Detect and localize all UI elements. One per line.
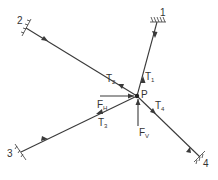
cable-2-arrow	[41, 36, 48, 41]
tension-label-3: T3	[98, 117, 108, 129]
force-diagram: 1 2 3 4 P T1 T2 T3 T4 FH FV	[0, 0, 218, 180]
point-p	[135, 94, 139, 98]
tension-label-1: T1	[145, 71, 155, 83]
support-label-3: 3	[7, 148, 13, 159]
tension-label-4: T4	[155, 100, 165, 112]
tension-label-2: T2	[106, 73, 116, 85]
support-label-1: 1	[160, 7, 166, 18]
force-label-h: FH	[97, 99, 107, 111]
cable-3	[21, 96, 137, 152]
support-label-4: 4	[203, 158, 209, 169]
t2-arrow	[118, 84, 124, 89]
support-label-2: 2	[17, 15, 23, 26]
point-label: P	[141, 89, 148, 100]
support-3	[15, 144, 26, 160]
cable-4	[137, 96, 200, 157]
force-label-v: FV	[139, 127, 149, 139]
force-v-arrow	[136, 99, 141, 105]
